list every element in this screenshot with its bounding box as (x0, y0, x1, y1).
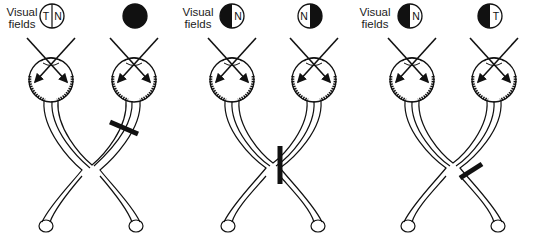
right-eye-field-circle: T (478, 4, 502, 28)
left-eye-field-circle: N (220, 4, 244, 28)
right-field-letter-T: T (493, 10, 500, 22)
panel-optic-tract-lesion: N T (388, 4, 518, 232)
left-eye-field-circle: N (398, 4, 422, 28)
diagram-svg: T N (0, 0, 542, 240)
right-eye-icon (290, 38, 338, 102)
panel-chiasm-lesion: N N (208, 4, 338, 232)
left-field-letter-T: T (43, 10, 50, 22)
visual-pathway-figure: Visual fields Visual fields Visual field… (0, 0, 542, 240)
right-eye-field-circle-blind (123, 4, 147, 28)
right-eye-icon (110, 38, 158, 102)
left-field-letter-N: N (234, 10, 242, 22)
left-field-letter-N: N (54, 10, 62, 22)
left-eye-icon (208, 38, 256, 102)
left-eye-icon (27, 38, 75, 102)
right-field-letter-N: N (300, 10, 308, 22)
right-eye-icon (470, 38, 518, 102)
left-eye-field-circle: T N (40, 4, 64, 28)
optic-pathway (39, 101, 143, 232)
right-eye-field-circle: N (298, 4, 322, 28)
left-eye-icon (388, 38, 436, 102)
panel-optic-nerve-lesion: T N (27, 4, 158, 232)
left-field-letter-N: N (412, 10, 420, 22)
optic-pathway (221, 101, 325, 232)
optic-pathway (401, 101, 505, 232)
